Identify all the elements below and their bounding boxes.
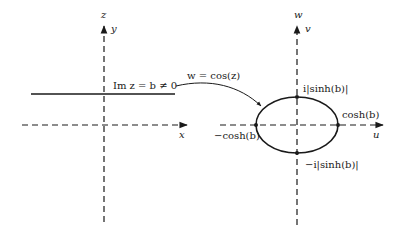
mapping-arrow: w = cos(z) [176, 70, 261, 106]
label-left: −cosh(b) [214, 130, 260, 141]
label-bottom: −i|sinh(b)| [305, 159, 359, 171]
point-bottom [295, 151, 299, 155]
line-label: Im z = b ≠ 0 [113, 80, 177, 91]
z-plane-label: z [100, 9, 107, 20]
point-top [295, 95, 299, 99]
label-right: cosh(b) [342, 109, 379, 120]
w-plane-label: w [294, 9, 303, 20]
v-axis-label: v [305, 23, 311, 34]
y-axis-label: y [110, 23, 117, 34]
conformal-map-diagram: z y x Im z = b ≠ 0 w = cos(z) w v u i|si… [0, 0, 402, 237]
point-left [254, 123, 258, 127]
mapping-label: w = cos(z) [187, 70, 240, 81]
label-top: i|sinh(b)| [303, 83, 348, 95]
point-right [336, 123, 340, 127]
z-plane: z y x Im z = b ≠ 0 [22, 9, 187, 222]
u-axis-label: u [373, 129, 379, 140]
x-axis-label: x [179, 129, 185, 140]
w-plane: w v u i|sinh(b)| cosh(b) −cosh(b) −i|sin… [214, 9, 383, 225]
